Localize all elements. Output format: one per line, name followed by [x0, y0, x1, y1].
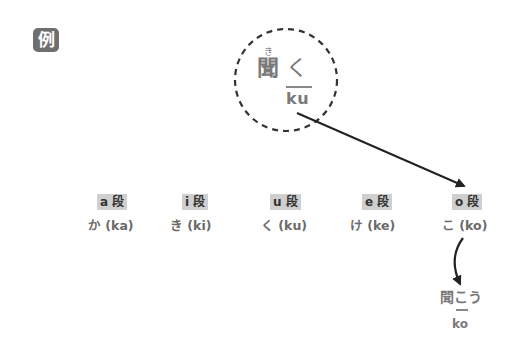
example-okurigana: く: [286, 57, 308, 79]
arrow-to-o-dan: [297, 113, 464, 186]
kana-ko: こ (ko): [442, 219, 487, 233]
result-underline: [456, 309, 468, 311]
dan-label-a: a 段: [97, 194, 127, 210]
kana-ku: く (ku): [261, 219, 307, 233]
result-word: 聞こう: [440, 290, 482, 304]
result-romaji: ko: [452, 318, 468, 330]
curved-arrow-down: [455, 238, 463, 284]
example-romaji: ku: [286, 91, 309, 107]
kana-ke: け (ke): [350, 219, 395, 233]
dan-label-i: i 段: [182, 194, 208, 210]
kana-ka: か (ka): [88, 219, 134, 233]
kana-ki: き (ki): [170, 219, 211, 233]
result-kana: こう: [454, 289, 482, 305]
dashed-circle: [235, 29, 337, 131]
dan-label-e: e 段: [362, 194, 392, 210]
example-kanji: 聞: [257, 57, 279, 79]
okurigana-underline: [286, 86, 312, 88]
dan-label-o: o 段: [452, 194, 482, 210]
diagram-arrows: [0, 0, 516, 347]
dan-label-u: u 段: [270, 194, 301, 210]
result-kanji: 聞: [440, 289, 454, 305]
